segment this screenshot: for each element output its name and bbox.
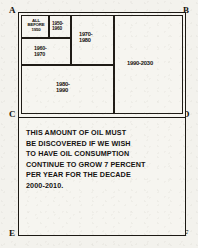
diagram-divider-cd [18, 117, 186, 118]
diagram-caption: THIS AMOUNT OF OIL MUST BE DISCOVERED IF… [26, 128, 178, 192]
block-all-before-1950: ALL BEFORE 1950 [21, 15, 49, 38]
corner-label-c: C [9, 110, 16, 119]
caption-line: 2000-2010. [26, 181, 178, 192]
oil-discovery-area-diagram: A B C D E F ALL BEFORE 1950 1950- 1960 1… [0, 0, 198, 248]
block-label: 1970- 1980 [79, 32, 92, 44]
block-1980-1990: 1980- 1990 [21, 65, 114, 114]
block-1950-1960: 1950- 1960 [49, 15, 71, 38]
block-label: 1980- 1990 [56, 81, 70, 93]
block-label: 1950- 1960 [52, 21, 71, 31]
caption-line: BE DISCOVERED IF WE WISH [26, 139, 178, 150]
block-label: 1960- 1970 [34, 46, 47, 57]
caption-line: PER YEAR FOR THE DECADE [26, 170, 178, 181]
corner-label-a: A [9, 6, 16, 15]
block-1990-2030: 1990-2030 [114, 15, 183, 114]
block-1970-1980: 1970- 1980 [71, 15, 114, 65]
decade-area-blocks: ALL BEFORE 1950 1950- 1960 1960- 1970 19… [18, 12, 186, 117]
block-label: ALL BEFORE 1950 [24, 19, 48, 33]
corner-label-e: E [9, 229, 15, 238]
block-label: 1990-2030 [127, 60, 153, 66]
block-1960-1970: 1960- 1970 [21, 38, 71, 65]
caption-line: THIS AMOUNT OF OIL MUST [26, 128, 178, 139]
caption-line: TO HAVE OIL CONSUMPTION [26, 149, 178, 160]
caption-line: CONTINUE TO GROW 7 PERCENT [26, 160, 178, 171]
